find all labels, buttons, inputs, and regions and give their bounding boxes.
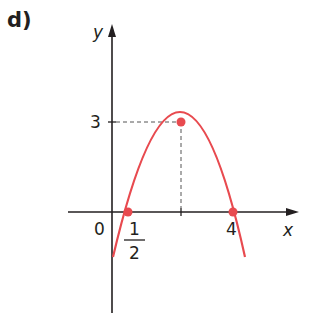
root-half-point: [124, 208, 133, 217]
y-tick-label-3: 3: [90, 112, 101, 132]
parabola-graph: [0, 0, 326, 327]
y-axis-label: y: [93, 22, 103, 42]
x-tick-label-4: 4: [226, 219, 237, 239]
x-axis-label: x: [283, 220, 293, 240]
x-axis-arrow-icon: [286, 208, 299, 216]
root-four-point: [229, 208, 238, 217]
half-denominator: 2: [129, 243, 140, 263]
half-numerator: 1: [129, 219, 140, 239]
origin-label: 0: [94, 219, 105, 239]
vertex-point: [177, 118, 186, 127]
y-axis-arrow-icon: [108, 24, 116, 37]
